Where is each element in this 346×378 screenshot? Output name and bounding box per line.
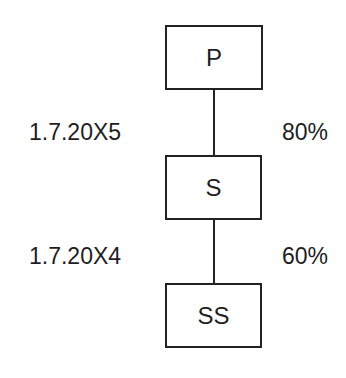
node-s: S — [165, 155, 262, 220]
node-s-label: S — [205, 176, 221, 200]
node-p-label: P — [206, 46, 222, 70]
connector-p-s — [213, 88, 215, 156]
node-p: P — [165, 25, 263, 90]
edge-1-left-label: 1.7.20X5 — [29, 121, 121, 144]
edge-1-right-label: 80% — [282, 121, 328, 144]
edge-2-right-label: 60% — [282, 245, 328, 268]
connector-s-ss — [213, 219, 215, 284]
edge-2-left-label: 1.7.20X4 — [29, 245, 121, 268]
node-ss-label: SS — [197, 304, 229, 328]
node-ss: SS — [165, 283, 262, 348]
